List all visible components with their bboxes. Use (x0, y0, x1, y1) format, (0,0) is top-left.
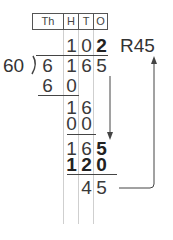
step5-tens: 2 (79, 157, 94, 173)
remainder-ones: 5 (94, 180, 109, 196)
step5-ones: 0 (94, 157, 109, 173)
dividend-ones: 5 (94, 58, 109, 74)
step1-underline (38, 95, 79, 96)
step5-underline (67, 174, 117, 175)
step1-hundreds: 0 (64, 78, 79, 94)
step3-hundreds: 0 (64, 116, 79, 132)
dividend-tens: 6 (79, 58, 94, 74)
dividend-hundreds: 1 (64, 58, 79, 74)
step3-tens: 0 (79, 116, 94, 132)
remainder-tens: 4 (79, 180, 94, 196)
step3-underline (67, 134, 96, 135)
dividend-thousands: 6 (40, 58, 55, 74)
step5-hundreds: 1 (64, 157, 79, 173)
step1-thousands: 6 (40, 78, 55, 94)
